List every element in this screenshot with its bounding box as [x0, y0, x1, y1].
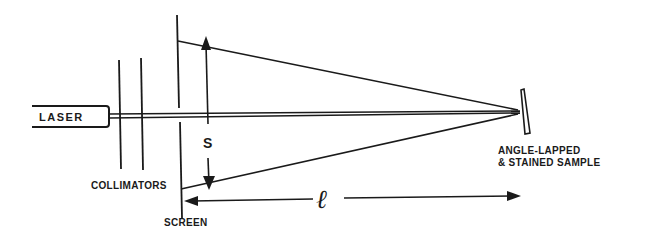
arrowhead-right-icon [507, 191, 521, 201]
laser-label: LASER [39, 111, 84, 123]
sample-label-line1: ANGLE-LAPPED [498, 145, 581, 156]
collimators: COLLIMATORS [91, 58, 167, 191]
laser-diffraction-setup-diagram: LASER COLLIMATORS SCREEN ANGLE-LAPPED & … [0, 0, 646, 235]
l-dimension-arrow: ℓ [184, 184, 521, 214]
laser-beam [109, 111, 520, 118]
angle-lapped-sample: ANGLE-LAPPED & STAINED SAMPLE [498, 89, 600, 168]
sample-label-line2: & STAINED SAMPLE [498, 157, 600, 168]
arrowhead-left-icon [184, 196, 198, 206]
s-label: S [203, 135, 212, 151]
collimators-label: COLLIMATORS [91, 180, 167, 191]
laser: LASER [32, 106, 109, 127]
screen: SCREEN [164, 15, 207, 228]
l-label: ℓ [316, 184, 327, 214]
arrowhead-up-icon [201, 36, 211, 50]
screen-label: SCREEN [164, 217, 207, 228]
